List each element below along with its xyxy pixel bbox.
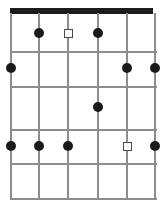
fret-line-2 — [10, 86, 157, 88]
string-line-5 — [126, 13, 128, 200]
string-line-3 — [67, 13, 69, 200]
finger-dot-marker-s2-f1 — [34, 28, 44, 38]
finger-dot-marker-s3-f4 — [63, 141, 73, 151]
nut-bar — [10, 8, 153, 14]
finger-dot-marker-s2-f4 — [34, 141, 44, 151]
open-square-marker-s3-f1 — [64, 29, 73, 38]
string-line-1 — [10, 13, 12, 200]
finger-dot-marker-s4-f3 — [93, 102, 103, 112]
string-line-6 — [154, 13, 156, 200]
string-line-2 — [38, 13, 40, 200]
finger-dot-marker-s1-f2 — [6, 63, 16, 73]
fret-line-4 — [10, 163, 157, 165]
finger-dot-marker-s4-f1 — [93, 28, 103, 38]
fret-line-5 — [10, 198, 157, 200]
finger-dot-marker-s5-f2 — [122, 63, 132, 73]
fretboard-diagram — [0, 0, 160, 206]
finger-dot-marker-s6-f4 — [150, 141, 160, 151]
fret-line-3 — [10, 129, 157, 131]
fret-line-1 — [10, 51, 157, 53]
finger-dot-marker-s6-f2 — [150, 63, 160, 73]
open-square-marker-s5-f4 — [123, 142, 132, 151]
finger-dot-marker-s1-f4 — [6, 141, 16, 151]
